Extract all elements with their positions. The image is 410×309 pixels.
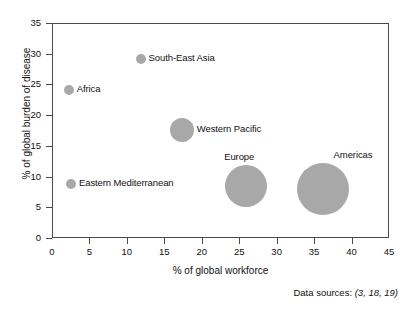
bubble-africa[interactable] [64,85,74,95]
x-tick-label-20: 20 [187,247,217,257]
x-tick-10 [127,238,128,244]
x-tick-20 [202,238,203,244]
bubble-label-western-pacific: Western Pacific [197,123,261,134]
bubble-eastern-mediterranean[interactable] [66,179,76,189]
bubble-americas[interactable] [297,163,349,215]
x-tick-30 [277,238,278,244]
x-tick-35 [314,238,315,244]
y-tick-label-10: 10 [17,172,41,182]
bubble-label-americas: Americas [334,149,373,160]
bubble-label-south-east-asia: South-East Asia [149,52,215,63]
bubble-label-africa: Africa [77,83,101,94]
bubble-western-pacific[interactable] [170,118,194,142]
y-tick-0 [46,238,52,239]
x-tick-label-35: 35 [299,247,329,257]
bubble-south-east-asia[interactable] [136,54,146,64]
x-tick-5 [89,238,90,244]
y-tick-label-5: 5 [17,202,41,212]
bubble-label-eastern-mediterranean: Eastern Mediterranean [79,177,174,188]
bubble-label-europe: Europe [224,151,254,162]
x-tick-label-40: 40 [337,247,367,257]
bubble-europe[interactable] [225,165,267,207]
x-tick-40 [352,238,353,244]
x-tick-label-45: 45 [374,247,404,257]
x-axis-title: % of global workforce [52,265,389,276]
x-tick-label-10: 10 [112,247,142,257]
data-sources-citation: (3, 18, 19) [355,287,398,298]
y-tick-label-35: 35 [17,18,41,28]
x-tick-label-15: 15 [149,247,179,257]
y-tick-label-20: 20 [17,110,41,120]
x-tick-label-25: 25 [224,247,254,257]
x-tick-label-30: 30 [262,247,292,257]
data-sources-prefix: Data sources: [293,287,354,298]
y-tick-label-30: 30 [17,49,41,59]
x-tick-15 [164,238,165,244]
x-tick-label-0: 0 [37,247,67,257]
y-tick-label-25: 25 [17,79,41,89]
y-tick-label-0: 0 [17,233,41,243]
bubble-chart-figure: % of global burden of disease 0510152025… [0,0,410,309]
x-tick-label-5: 5 [74,247,104,257]
y-tick-label-15: 15 [17,141,41,151]
data-sources-note: Data sources: (3, 18, 19) [293,287,398,298]
x-tick-25 [239,238,240,244]
